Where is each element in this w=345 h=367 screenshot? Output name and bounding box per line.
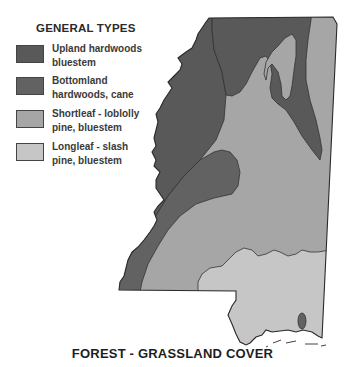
legend-item-longleaf-slash: Longleaf - slash pine, bluestem (14, 140, 184, 180)
legend: GENERAL TYPES Upland hardwoods bluestem … (14, 22, 174, 34)
legend-swatch-longleaf-slash (16, 143, 44, 161)
map-caption: FOREST - GRASSLAND COVER (0, 346, 345, 361)
legend-swatch-bottomland-hardwoods (16, 77, 44, 95)
legend-label: Shortleaf - loblolly pine, bluestem (52, 107, 192, 135)
legend-label: Upland hardwoods bluestem (52, 42, 192, 70)
bottomland-coastal-patch (298, 313, 306, 329)
legend-label: Longleaf - slash pine, bluestem (52, 140, 192, 168)
legend-label: Bottomland hardwoods, cane (52, 74, 192, 102)
legend-swatch-shortleaf-loblolly (16, 110, 44, 128)
legend-title: GENERAL TYPES (36, 22, 174, 34)
legend-swatch-upland-hardwoods (16, 45, 44, 63)
